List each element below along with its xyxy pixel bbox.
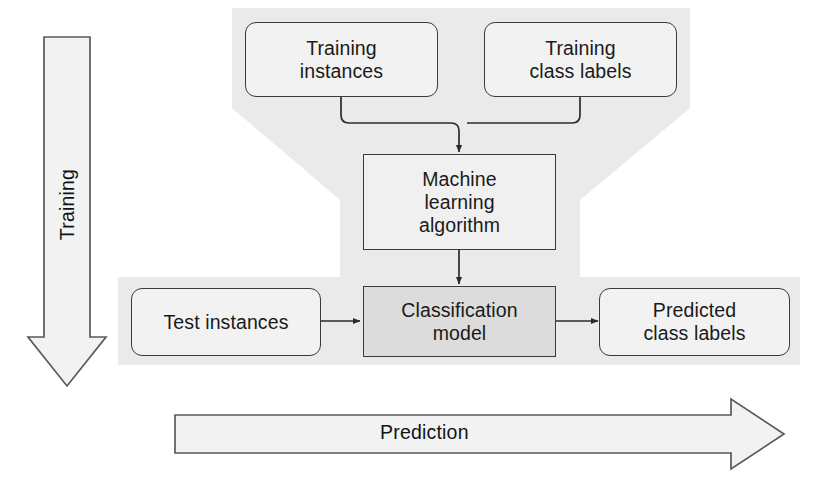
node-training-instances-label: Training instances — [296, 37, 387, 83]
node-training-class-labels[interactable]: Training class labels — [484, 22, 677, 97]
node-training-instances[interactable]: Training instances — [245, 22, 438, 97]
node-classification-model[interactable]: Classification model — [363, 286, 556, 357]
diagram-canvas: Training Prediction Training instances T… — [0, 0, 824, 490]
training-flow-label: Training — [56, 135, 79, 275]
node-test-instances-label: Test instances — [160, 311, 293, 334]
connector-training-instances-to-algorithm — [341, 97, 451, 123]
node-machine-learning-algorithm-label: Machine learning algorithm — [415, 168, 504, 237]
prediction-flow-arrow — [175, 399, 784, 469]
training-flow-label-text: Training — [56, 169, 78, 240]
node-predicted-class-labels[interactable]: Predicted class labels — [599, 288, 790, 356]
node-training-class-labels-label: Training class labels — [526, 37, 636, 83]
node-machine-learning-algorithm[interactable]: Machine learning algorithm — [363, 154, 556, 250]
connector-class-labels-to-algorithm — [467, 97, 580, 123]
node-test-instances[interactable]: Test instances — [131, 288, 321, 356]
prediction-flow-label-text: Prediction — [380, 421, 469, 443]
node-classification-model-label: Classification model — [397, 299, 521, 345]
node-predicted-class-labels-label: Predicted class labels — [640, 299, 750, 345]
connector-merge-to-algorithm — [451, 123, 459, 152]
prediction-flow-label: Prediction — [380, 421, 469, 444]
